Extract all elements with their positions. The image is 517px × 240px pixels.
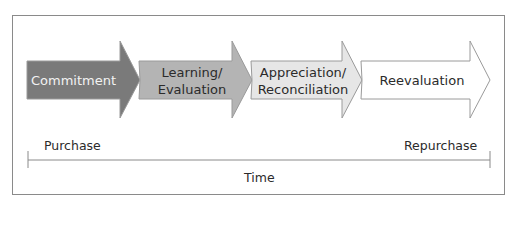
- stage-arrow-appreciation-reconciliation: [251, 41, 362, 118]
- stage-label-commitment: Commitment: [31, 73, 116, 88]
- stage-label-appreciation-reconciliation: Reconciliation: [258, 82, 349, 97]
- stage-label-learning-evaluation: Learning/: [162, 65, 223, 80]
- stage-arrow-learning-evaluation: [139, 41, 252, 118]
- repurchase-label: Repurchase: [404, 138, 477, 153]
- stage-label-appreciation-reconciliation: Appreciation/: [260, 65, 347, 80]
- time-axis-label: Time: [244, 170, 275, 185]
- stage-label-learning-evaluation: Evaluation: [158, 82, 227, 97]
- stage-label-reevaluation: Reevaluation: [380, 73, 465, 88]
- purchase-label: Purchase: [44, 138, 101, 153]
